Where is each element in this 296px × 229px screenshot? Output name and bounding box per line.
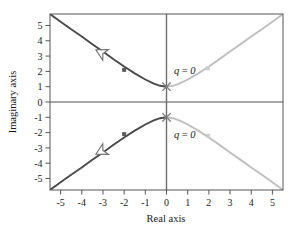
y-tick-label: -1 <box>34 112 42 123</box>
x-tick-label: 5 <box>270 197 275 208</box>
y-axis-label: Imaginary axis <box>7 71 18 134</box>
x-tick-label: 3 <box>228 197 233 208</box>
x-tick-label: -2 <box>120 197 128 208</box>
annotation-q-equals-zero: q = 0 <box>174 129 196 140</box>
y-tick-label: 5 <box>38 20 43 31</box>
tick-label-group: -5-4-3-2-1012345543210-1-2-3-4-5 <box>34 20 275 208</box>
y-tick-label: -4 <box>34 158 42 169</box>
x-tick-label: 2 <box>206 197 211 208</box>
y-tick-label: 2 <box>38 66 43 77</box>
complex-plane-root-locus-plot: -5-4-3-2-1012345543210-1-2-3-4-5 q = 0q … <box>0 0 296 229</box>
locus-branch-upper-branch-right <box>167 15 282 87</box>
x-tick-label: 1 <box>185 197 190 208</box>
x-tick-label: 0 <box>164 197 169 208</box>
figure-container: -5-4-3-2-1012345543210-1-2-3-4-5 q = 0q … <box>0 0 296 229</box>
x-tick-label: 4 <box>249 197 254 208</box>
y-tick-label: 4 <box>38 35 43 46</box>
y-tick-label: 1 <box>38 81 43 92</box>
x-tick-label: -3 <box>99 197 107 208</box>
y-tick-label: -3 <box>34 143 42 154</box>
locus-branch-lower-branch-right <box>167 117 282 189</box>
x-tick-label: -4 <box>78 197 86 208</box>
y-tick-label: -5 <box>34 173 42 184</box>
branch-point-marker <box>122 68 126 72</box>
y-tick-label: -2 <box>34 127 42 138</box>
x-tick-label: -5 <box>56 197 64 208</box>
y-tick-label: 3 <box>38 51 43 62</box>
branch-point-marker <box>206 134 210 138</box>
branch-point-marker <box>206 66 210 70</box>
y-tick-label: 0 <box>38 97 43 108</box>
axis-lines-group <box>50 14 283 190</box>
annotation-q-equals-zero: q = 0 <box>174 65 196 76</box>
branch-point-marker <box>122 132 126 136</box>
x-tick-label: -1 <box>141 197 149 208</box>
x-axis-label: Real axis <box>147 213 186 224</box>
